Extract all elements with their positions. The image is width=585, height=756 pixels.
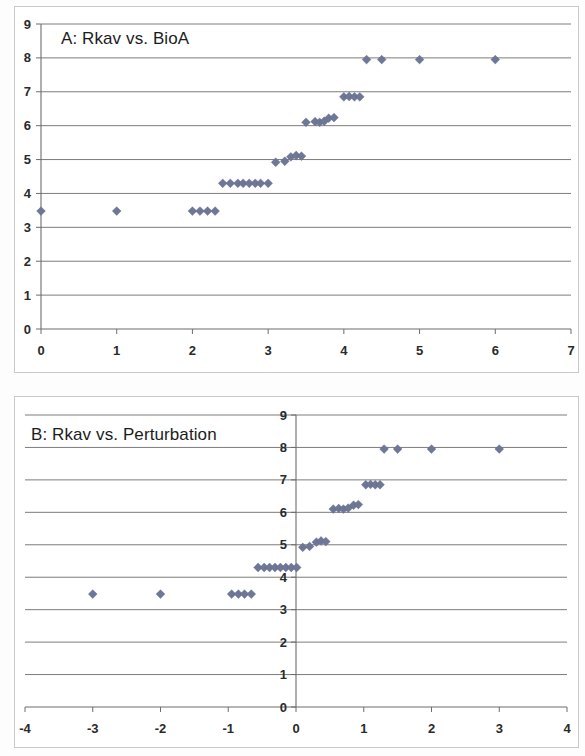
data-point (292, 563, 301, 572)
x-tick-label-1: 1 (113, 343, 120, 358)
x-tick-label--2: -2 (155, 721, 167, 736)
x-tick-label-5: 5 (416, 343, 423, 358)
x-tick-label-4: 4 (563, 721, 571, 736)
y-tick-label-2: 2 (280, 635, 287, 650)
data-point (112, 207, 121, 216)
x-tick-label-3: 3 (265, 343, 272, 358)
y-tick-label-7: 7 (280, 472, 287, 487)
y-tick-label-4: 4 (280, 570, 288, 585)
data-point (247, 590, 256, 599)
scatter-plot-b: 0123456789-4-3-2-101234 (15, 397, 578, 747)
data-point (362, 55, 371, 64)
scatter-plot-a: 012345678901234567 (15, 7, 578, 372)
x-tick-label-3: 3 (496, 721, 503, 736)
x-tick-label-2: 2 (189, 343, 196, 358)
x-tick-label-0: 0 (292, 721, 299, 736)
x-tick-label-2: 2 (428, 721, 435, 736)
y-tick-label-8: 8 (280, 440, 287, 455)
x-tick-label-1: 1 (360, 721, 367, 736)
x-tick-label--3: -3 (87, 721, 99, 736)
x-tick-label-7: 7 (567, 343, 574, 358)
y-tick-label-3: 3 (24, 220, 31, 235)
data-point (211, 207, 220, 216)
x-tick-label-6: 6 (492, 343, 499, 358)
y-tick-label-0: 0 (24, 322, 31, 337)
y-tick-label-9: 9 (280, 408, 287, 423)
y-tick-label-7: 7 (24, 84, 31, 99)
data-point (264, 179, 273, 188)
data-point (305, 542, 314, 551)
data-point (377, 55, 386, 64)
chart-title-b: B: Rkav vs. Perturbation (31, 425, 217, 445)
data-point (393, 445, 402, 454)
chart-panel-a: 012345678901234567 A: Rkav vs. BioA (14, 6, 579, 373)
y-tick-label-5: 5 (24, 152, 31, 167)
x-tick-label-4: 4 (340, 343, 348, 358)
data-point (37, 207, 46, 216)
y-tick-label-6: 6 (280, 505, 287, 520)
y-tick-label-9: 9 (24, 17, 31, 32)
data-point (380, 445, 389, 454)
data-point (427, 445, 436, 454)
x-tick-label--4: -4 (19, 721, 31, 736)
y-tick-label-1: 1 (24, 288, 31, 303)
y-tick-label-4: 4 (24, 186, 32, 201)
data-point (88, 590, 97, 599)
figure-page: 012345678901234567 A: Rkav vs. BioA 0123… (0, 0, 585, 756)
y-tick-label-3: 3 (280, 602, 287, 617)
data-point (491, 55, 500, 64)
x-tick-label--1: -1 (222, 721, 234, 736)
plot-area-b: 0123456789-4-3-2-101234 B: Rkav vs. Pert… (15, 397, 578, 747)
y-tick-label-6: 6 (24, 118, 31, 133)
y-tick-label-5: 5 (280, 537, 287, 552)
x-tick-label-0: 0 (37, 343, 44, 358)
y-tick-label-8: 8 (24, 50, 31, 65)
plot-area-a: 012345678901234567 A: Rkav vs. BioA (15, 7, 578, 372)
data-point (376, 480, 385, 489)
data-point (156, 590, 165, 599)
chart-title-a: A: Rkav vs. BioA (61, 29, 189, 49)
y-tick-label-0: 0 (280, 700, 287, 715)
data-point (415, 55, 424, 64)
y-tick-label-2: 2 (24, 254, 31, 269)
data-point (495, 445, 504, 454)
data-point (355, 92, 364, 101)
y-tick-label-1: 1 (280, 667, 287, 682)
chart-panel-b: 0123456789-4-3-2-101234 B: Rkav vs. Pert… (14, 396, 579, 748)
